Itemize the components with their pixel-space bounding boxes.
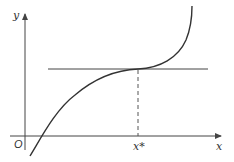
function-curve xyxy=(30,6,192,156)
diagram: y O x* x xyxy=(0,0,234,162)
x-axis-label: x xyxy=(216,141,222,152)
graph-canvas xyxy=(0,0,234,162)
y-axis-label: y xyxy=(13,10,19,21)
critical-point-label: x* xyxy=(133,141,145,152)
origin-label: O xyxy=(14,139,23,150)
